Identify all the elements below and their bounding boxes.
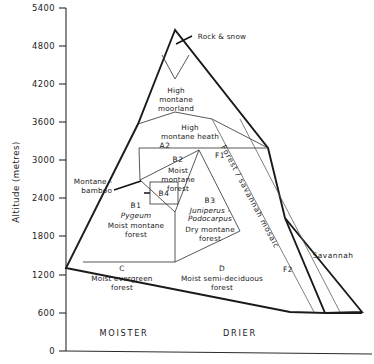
x-axis-line [66, 351, 372, 354]
label-d: D Moist semi-deciduous forest [181, 264, 263, 292]
svg-text:Moist evergreen: Moist evergreen [91, 274, 152, 283]
y-tick-label-3600: 3600 [32, 117, 55, 127]
y-tick-label-1200: 1200 [32, 270, 55, 280]
montane-bamboo-leader [114, 181, 141, 190]
y-tick-label-1800: 1800 [32, 231, 55, 241]
svg-text:montane heath: montane heath [161, 132, 219, 141]
svg-text:High: High [167, 86, 184, 95]
heath-upper-boundary [138, 112, 268, 148]
code-d: D [219, 264, 225, 273]
svg-text:Podocarpus: Podocarpus [188, 214, 232, 223]
vegetation-zonation-figure: 5400 4800 4200 3600 3000 2400 1800 1200 … [0, 0, 374, 364]
y-tick-label-600: 600 [38, 308, 55, 318]
savannah-outline [285, 218, 362, 313]
y-tick-label-4800: 4800 [32, 41, 55, 51]
bamboo-left-edge [139, 148, 140, 180]
label-c: C Moist evergreen forest [91, 264, 152, 292]
svg-text:Montane -: Montane - [74, 177, 112, 186]
svg-text:bamboo: bamboo [81, 186, 112, 195]
svg-text:moorland: moorland [158, 104, 194, 113]
svg-text:Moist semi-deciduous: Moist semi-deciduous [181, 274, 263, 283]
y-tick-labels: 5400 4800 4200 3600 3000 2400 1800 1200 … [32, 3, 55, 356]
svg-text:High: High [181, 123, 198, 132]
label-forest-savannah-mosaic: Forest / savannah mosaic [219, 144, 281, 251]
diagram-canvas: 5400 4800 4200 3600 3000 2400 1800 1200 … [0, 0, 374, 364]
svg-text:forest: forest [125, 230, 147, 239]
svg-text:Moist montane: Moist montane [108, 221, 165, 230]
code-b3: B3 [205, 196, 216, 205]
label-high-montane-heath: High montane heath A2 [160, 123, 219, 150]
code-b1: B1 [131, 201, 142, 210]
y-tick-label-5400: 5400 [32, 3, 55, 13]
label-savannah: Savannah [313, 251, 354, 260]
svg-text:montane: montane [159, 95, 193, 104]
code-c: C [119, 264, 125, 273]
svg-text:forest: forest [167, 184, 189, 193]
y-tick-label-4200: 4200 [32, 79, 55, 89]
label-b1: B1 Pygeum Moist montane forest [108, 201, 165, 239]
svg-text:forest: forest [211, 283, 233, 292]
svg-text:Pygeum: Pygeum [121, 211, 151, 220]
code-a2: A2 [160, 141, 171, 150]
svg-text:forest: forest [199, 234, 221, 243]
svg-text:forest: forest [111, 283, 133, 292]
y-axis-title: Altitude (metres) [11, 141, 21, 223]
code-b2: B2 [173, 155, 184, 164]
label-drier: DRIER [223, 328, 257, 338]
code-f2: F2 [283, 265, 293, 274]
label-b3: B3 Juniperus - Podocarpus Dry montane fo… [185, 196, 235, 243]
y-tick-label-0: 0 [49, 346, 55, 356]
mosaic-band-right [240, 119, 340, 312]
label-rock-snow: Rock & snow [198, 32, 246, 41]
label-moister: MOISTER [100, 328, 149, 338]
svg-text:Dry montane: Dry montane [185, 225, 235, 234]
svg-text:montane: montane [161, 175, 195, 184]
svg-text:Moist: Moist [168, 166, 188, 175]
y-tick-label-3000: 3000 [32, 155, 55, 165]
label-high-montane-moorland: High montane moorland [158, 86, 194, 113]
y-tick-label-2400: 2400 [32, 193, 55, 203]
rock-snow-boundary [162, 55, 189, 79]
